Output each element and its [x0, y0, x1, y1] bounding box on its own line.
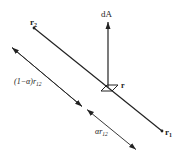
lower-length-label: αr12 — [95, 127, 108, 137]
dA-label: dA — [101, 9, 113, 19]
point-r2-label: r2 — [30, 17, 37, 28]
point-r1-dot — [161, 130, 164, 133]
segment-r2-r1 — [33, 27, 164, 133]
point-r-label: r — [121, 81, 125, 90]
diagram-canvas: dA r2 r1 r (1−α)r12 αr12 — [0, 0, 182, 158]
upper-length-label: (1−α)r12 — [14, 77, 42, 87]
dimension-line — [12, 48, 136, 150]
point-r1-label: r1 — [165, 127, 172, 138]
